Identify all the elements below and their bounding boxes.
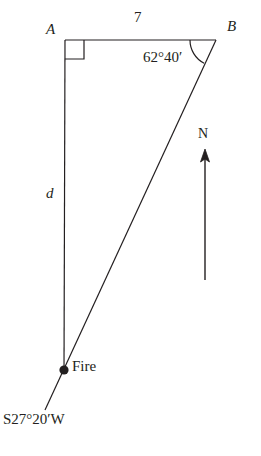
fire-point-marker [59,365,68,374]
right-angle-marker [65,40,84,59]
fire-label: Fire [72,359,96,374]
diagram-canvas: A B 7 d 62°40′ N Fire S27°20′W [0,0,261,456]
segment-a-to-fire [64,40,65,370]
side-length-label-ab: 7 [134,10,142,25]
angle-measure-label-b: 62°40′ [143,50,182,65]
geometry-diagram [0,0,261,456]
bearing-label: S27°20′W [3,412,65,427]
vertex-label-a: A [46,22,55,37]
vertex-label-b: B [227,19,236,34]
side-length-label-d: d [46,186,54,201]
angle-arc-b [190,40,204,63]
north-label: N [198,127,208,141]
bearing-line-b-to-fire [45,40,216,410]
